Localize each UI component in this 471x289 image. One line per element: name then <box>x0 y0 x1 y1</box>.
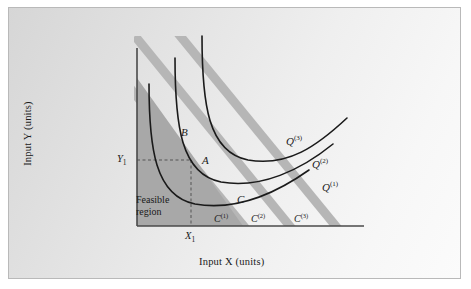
feasible-region-label-line2: region <box>136 206 169 218</box>
x-axis-title: Input X (units) <box>199 256 264 267</box>
diagram-canvas <box>9 8 462 280</box>
feasible-region-label-line1: Feasible <box>136 194 169 206</box>
y-axis-title: Input Y (units) <box>22 89 33 179</box>
point-c-label: C <box>237 193 244 205</box>
feasible-region-label: Feasible region <box>136 194 169 217</box>
y-tick-label-y1: Y1 <box>117 153 127 167</box>
isoquant-label-q1: Q(1) <box>322 180 338 193</box>
isoquant-label-q3: Q(3) <box>286 134 302 147</box>
isoquant-label-q2: Q(2) <box>312 157 328 170</box>
isocost-label-c1: C(1) <box>214 212 228 224</box>
figure-panel: Input Y (units) Input X (units) Y1 X1 Fe… <box>8 7 461 279</box>
point-a-label: A <box>202 154 209 166</box>
isocost-label-c3: C(3) <box>294 212 308 224</box>
x-tick-label-x1: X1 <box>185 230 195 244</box>
isocost-label-c2: C(2) <box>251 212 265 224</box>
point-b-label: B <box>181 126 188 138</box>
